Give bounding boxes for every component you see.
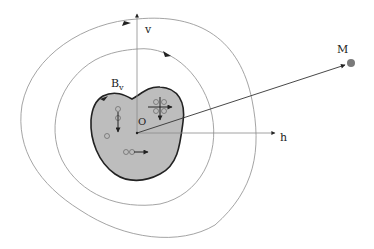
v-axis-label: v [145,24,151,35]
body-label-sub: v [119,83,124,92]
point-m-label: M [337,44,348,55]
h-axis-label: h [280,132,287,143]
origin-dot [136,132,138,134]
diagram-canvas [0,0,374,249]
outer-curve-arrow-icon [122,21,131,26]
origin-label: O [138,117,146,127]
point-m [347,59,355,67]
body-label-main: B [111,77,119,90]
body-label: Bv [111,78,124,92]
inner-curve-arrow-icon [163,51,171,57]
